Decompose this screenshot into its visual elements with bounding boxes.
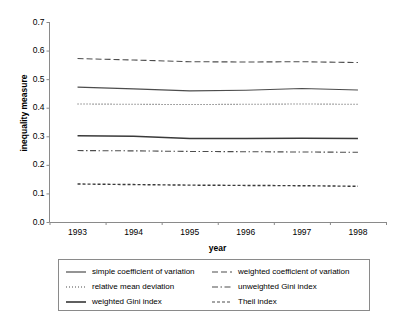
x-tick-label: 1998: [338, 228, 378, 237]
axes: [47, 22, 387, 225]
series-line-5: [78, 184, 358, 186]
legend-line-swatch: [211, 267, 233, 277]
series-line-4: [78, 136, 358, 139]
legend-item[interactable]: Theil index: [211, 294, 365, 309]
legend-line-swatch: [65, 297, 87, 307]
y-tick-label: 0.1: [19, 189, 45, 198]
legend-line-swatch: [65, 267, 87, 277]
legend-label: weighted coefficient of variation: [238, 267, 349, 276]
y-tick-label: 0.4: [19, 103, 45, 112]
y-tick-label: 0.0: [19, 218, 45, 227]
chart-figure: inequality measure year 0.00.10.20.30.40…: [0, 0, 417, 319]
legend-line-swatch: [211, 282, 233, 292]
legend-label: unweighted Gini index: [238, 282, 317, 291]
x-tick-label: 1995: [170, 228, 210, 237]
series-line-3: [78, 151, 358, 153]
legend-line-swatch: [211, 297, 233, 307]
legend-item[interactable]: unweighted Gini index: [211, 279, 365, 294]
legend-box: simple coefficient of variationweighted …: [58, 259, 370, 311]
legend-label: Theil index: [238, 297, 277, 306]
y-tick-label: 0.5: [19, 75, 45, 84]
y-tick-label: 0.2: [19, 160, 45, 169]
y-tick-label: 0.6: [19, 46, 45, 55]
data-series-group: [78, 59, 358, 187]
legend-item[interactable]: weighted coefficient of variation: [211, 264, 365, 279]
legend-label: weighted Gini index: [92, 297, 162, 306]
legend-entries: simple coefficient of variationweighted …: [65, 264, 365, 309]
legend-item[interactable]: relative mean deviation: [65, 279, 211, 294]
legend-label: relative mean deviation: [92, 282, 174, 291]
y-tick-label: 0.7: [19, 18, 45, 27]
x-tick-label: 1996: [226, 228, 266, 237]
y-tick-label: 0.3: [19, 132, 45, 141]
x-tick-label: 1993: [58, 228, 98, 237]
x-tick-label: 1997: [282, 228, 322, 237]
series-line-0: [78, 87, 358, 91]
legend-item[interactable]: simple coefficient of variation: [65, 264, 211, 279]
legend-item[interactable]: weighted Gini index: [65, 294, 211, 309]
legend-line-swatch: [65, 282, 87, 292]
x-tick-label: 1994: [114, 228, 154, 237]
legend-label: simple coefficient of variation: [92, 267, 195, 276]
series-line-1: [78, 59, 358, 63]
series-line-2: [78, 104, 358, 105]
